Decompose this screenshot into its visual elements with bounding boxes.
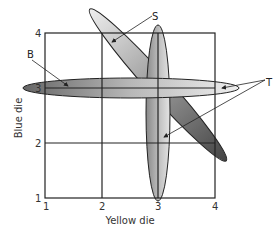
y-axis-label: Blue die — [13, 98, 24, 139]
x-tick-3: 3 — [155, 201, 161, 212]
x-axis-label: Yellow die — [104, 215, 154, 226]
label-b: B — [27, 49, 34, 60]
y-tick-3: 3 — [35, 83, 41, 94]
y-tick-1: 1 — [35, 193, 41, 204]
x-tick-1: 1 — [43, 201, 49, 212]
y-tick-4: 4 — [35, 28, 41, 39]
x-tick-2: 2 — [99, 201, 105, 212]
dice-diagram: S B T 4 3 2 1 1 2 3 4 Yellow die Blue di… — [0, 0, 278, 234]
y-tick-2: 2 — [35, 138, 41, 149]
label-s: S — [152, 11, 158, 22]
label-t: T — [265, 77, 273, 88]
x-tick-4: 4 — [212, 201, 218, 212]
